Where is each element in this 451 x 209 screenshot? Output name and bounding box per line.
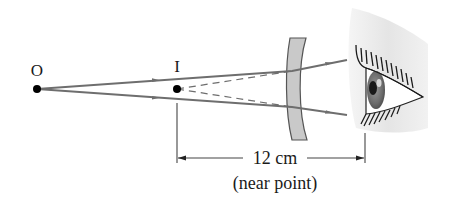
object-label: O [31,61,43,80]
image-point [173,85,181,93]
pupil [369,81,377,95]
virtual-rays [177,71,292,107]
iris-highlight [377,79,382,87]
near-point-caption: (near point) [233,173,317,194]
image-label: I [174,57,180,76]
diverging-lens [286,38,307,140]
eye-illustration [349,8,428,133]
distance-label: 12 cm [253,148,298,168]
object-point [33,85,41,93]
ray-diagram: O I 12 cm (near point) [0,0,451,209]
